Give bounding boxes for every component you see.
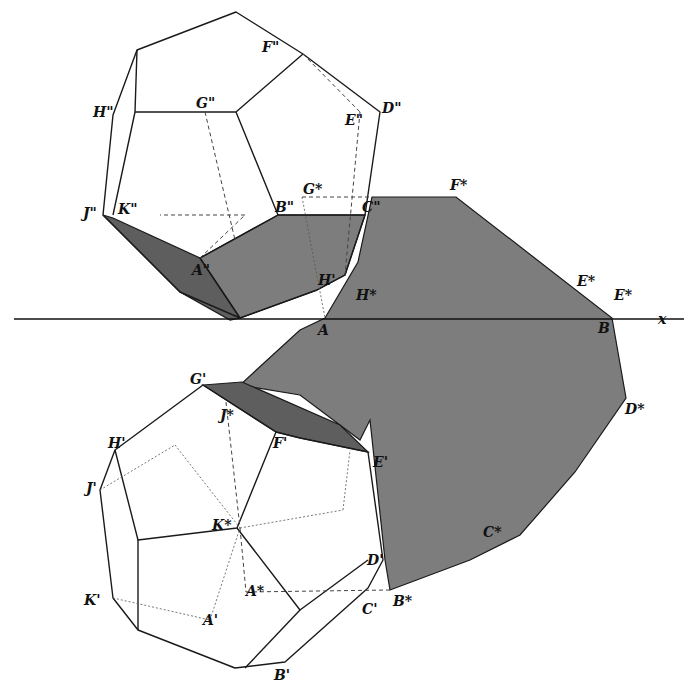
label-K-star: K* (211, 517, 232, 533)
label-H-star: H* (355, 287, 377, 303)
label-C-star: C* (483, 524, 502, 540)
label-B-star: B* (392, 593, 413, 609)
dodecahedron-shadow-figure: F" H" G" E" D" J" K" B" G* C" A" H' H* F… (0, 0, 692, 688)
label-H1: H' (107, 435, 126, 451)
label-x-axis: x (657, 311, 667, 327)
label-G-star: G* (303, 181, 323, 197)
label-D2: D" (381, 100, 401, 116)
label-E-sub: E* (613, 287, 633, 303)
label-F-star: F* (449, 177, 468, 193)
label-K1: K' (83, 592, 100, 608)
label-B1: B' (273, 667, 290, 683)
label-G1: G' (190, 371, 206, 387)
label-D1: D' (366, 552, 383, 568)
label-J2: J" (80, 205, 97, 221)
label-A: A (316, 322, 329, 338)
label-E2: E" (344, 112, 363, 128)
label-J-star: J* (217, 407, 235, 423)
label-F1: F' (272, 435, 287, 451)
label-C2: C" (362, 199, 380, 215)
label-F2: F" (261, 39, 279, 55)
label-E-star: E* (576, 273, 596, 289)
label-B2: B" (274, 199, 294, 215)
label-H2: H" (92, 104, 114, 120)
label-A-star: A* (244, 583, 265, 599)
label-H-prime: H' (317, 272, 336, 288)
label-K2: K" (117, 201, 137, 217)
label-E1: E' (372, 454, 388, 470)
label-B: B (597, 320, 610, 336)
label-D-star: D* (624, 401, 645, 417)
label-J1: J' (83, 480, 97, 496)
label-G2: G" (196, 95, 215, 111)
label-A1: A' (201, 612, 218, 628)
label-C1: C' (362, 601, 377, 617)
label-A2: A" (190, 262, 210, 278)
